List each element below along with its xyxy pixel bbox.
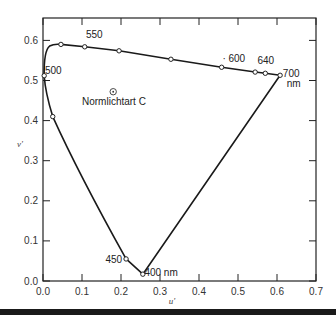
annotation-label: Normlichtart C	[82, 96, 146, 107]
x-tick-label: 0.2	[114, 286, 128, 297]
x-tick-label: 0.7	[309, 286, 323, 297]
wavelength-markers	[42, 42, 282, 276]
chromaticity-chart: 0.00.10.20.30.40.50.60.70.00.10.20.30.40…	[0, 0, 336, 315]
annotation-label: nm	[287, 78, 301, 89]
wavelength-annotations: 500550· 600640700nm450400 nmNormlichtart…	[45, 29, 301, 277]
annotation-label: 640	[258, 55, 275, 66]
y-tick-label: 0.6	[24, 35, 38, 46]
y-tick-label: 0.3	[24, 155, 38, 166]
annotation-label: 400 nm	[144, 267, 177, 278]
wavelength-marker-icon	[219, 65, 223, 69]
wavelength-marker-icon	[51, 114, 55, 118]
illuminant-c-marker-icon	[110, 89, 116, 95]
dot-icon	[112, 91, 114, 93]
axis-ticks	[43, 18, 316, 281]
annotation-label: 500	[45, 65, 62, 76]
x-tick-label: 0.4	[192, 286, 206, 297]
x-tick-label: 0.5	[231, 286, 245, 297]
wavelength-marker-icon	[253, 70, 257, 74]
x-tick-label: 0.1	[75, 286, 89, 297]
wavelength-marker-icon	[83, 45, 87, 49]
y-tick-label: 0.0	[24, 276, 38, 287]
x-tick-label: 0.3	[153, 286, 167, 297]
annotation-label: · 600	[222, 53, 245, 64]
spectral-locus-line	[44, 44, 280, 274]
wavelength-marker-icon	[278, 73, 282, 77]
page-edge-bar	[0, 309, 336, 315]
plot-frame	[43, 18, 316, 281]
y-tick-label: 0.5	[24, 75, 38, 86]
x-tick-label: 0.6	[270, 286, 284, 297]
wavelength-marker-icon	[124, 257, 128, 261]
annotation-label: 550	[86, 29, 103, 40]
y-tick-label: 0.1	[24, 235, 38, 246]
y-tick-label: 0.2	[24, 195, 38, 206]
wavelength-marker-icon	[263, 71, 267, 75]
y-tick-label: 0.4	[24, 115, 38, 126]
annotation-label: 450	[105, 254, 122, 265]
wavelength-marker-icon	[169, 57, 173, 61]
x-axis-title: u'	[169, 296, 177, 306]
wavelength-marker-icon	[59, 42, 63, 46]
y-axis-title: v'	[17, 139, 24, 149]
wavelength-marker-icon	[117, 49, 121, 53]
x-tick-label: 0.0	[36, 286, 50, 297]
